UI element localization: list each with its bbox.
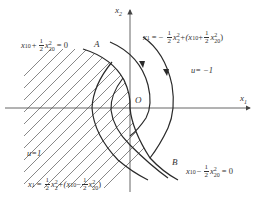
equation-switch-lower: x10 − 12 x220 = 0 [186,164,233,179]
eq-op: + [32,41,37,50]
eq-paren: ) [220,33,223,42]
equation-trajectory-u-minus: x1 = − 12 x22 +(x10 + 12 x220 ) [143,30,223,45]
eq-sub: 10 [25,43,31,49]
eq-sub: 10 [190,169,196,175]
eq-fraction: 12 [39,38,45,53]
eq-op: = − [152,33,164,42]
eq-fraction: 12 [204,30,210,45]
trajectory-u-plus-outer [92,62,148,180]
frac-den: 2 [46,185,50,192]
frac-den: 2 [83,185,87,192]
frac-den: 2 [168,38,172,45]
region-label-u-plus: u=1 [27,149,41,158]
eq-fraction: 12 [167,30,173,45]
eq-sub: 1 [32,182,35,188]
trajectory-u-plus-inner [111,78,168,178]
equation-trajectory-u-plus: x1 = 12 x22 +(x10 − 12 x220 ) [28,177,101,192]
frac-den: 2 [40,46,44,53]
frac-den: 2 [205,172,209,179]
frac-den: 2 [205,38,209,45]
point-b-label: B [172,158,178,167]
eq-sub: 20 [49,46,55,52]
origin-label: O [135,96,142,105]
eq-paren: ) [98,180,101,189]
eq-fraction: 12 [82,177,88,192]
eq-op: − [197,167,202,176]
switching-curve [83,49,178,180]
eq-op: + [198,33,203,42]
x2-axis-label: x2 [115,6,122,17]
eq-op: +(x [180,33,192,42]
eq-fraction: 12 [204,164,210,179]
point-a-label: A [94,40,100,49]
eq-op: = [37,180,42,189]
x1-axis-label: x1 [240,94,247,105]
equation-switch-upper: x10 + 12 x220 = 0 [21,38,68,53]
eq-op: − [76,180,81,189]
trajectory-u-minus-outer [143,37,173,158]
region-label-u-minus: u= −1 [191,66,213,75]
eq-op: +(x [58,180,70,189]
eq-rhs: = 0 [222,167,233,176]
eq-sub: 20 [214,172,220,178]
eq-fraction: 12 [45,177,51,192]
eq-rhs: = 0 [57,41,68,50]
eq-sub: 1 [147,35,150,41]
x1-sub: 1 [244,99,247,105]
x2-sub: 2 [119,11,122,17]
